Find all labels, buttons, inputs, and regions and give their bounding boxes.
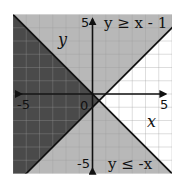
tick-label-y-neg5: -5	[77, 157, 90, 170]
origin-label: 0	[80, 99, 88, 112]
tick-label-x-5: 5	[160, 98, 168, 111]
x-axis-label: x	[147, 114, 156, 130]
y-axis-label: y	[58, 32, 67, 48]
inequality-label-2: y ≤ -x	[108, 157, 152, 172]
inequality-label-1: y ≥ x - 1	[104, 16, 167, 31]
tick-label-y-5: 5	[81, 16, 89, 29]
tick-label-x-neg5: -5	[17, 98, 30, 111]
